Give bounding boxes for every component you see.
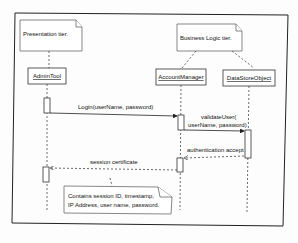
- validate-user-label-line1: validateUser(: [201, 114, 236, 120]
- session-certificate-label: session certificate: [90, 159, 138, 165]
- validate-user-label-line2: userName, password): [188, 122, 247, 128]
- business-note-anchor-right: [232, 51, 254, 68]
- lifeline-data-store-object: DataStoreObject: [223, 70, 275, 86]
- lifeline-account-manager: AccountManager: [156, 69, 206, 85]
- login-message-label: Login(userName, password): [78, 104, 153, 110]
- lifeline-admin-tool: AdminTool: [28, 68, 66, 84]
- presentation-tier-label: Presentation tier.: [23, 31, 68, 37]
- admin-tool-activation-2: [43, 167, 49, 182]
- admin-tool-label: AdminTool: [33, 73, 61, 79]
- auth-accept-message-arrow: [184, 156, 244, 158]
- sequence-diagram: Presentation tier. Business Logic tier. …: [0, 0, 298, 243]
- session-certificate-note: Contains session ID, timestamp, IP Addre…: [64, 186, 172, 214]
- business-tier-label: Business Logic tier.: [180, 35, 232, 41]
- business-tier-note: Business Logic tier.: [177, 24, 242, 51]
- session-note-line1: Contains session ID, timestamp,: [68, 193, 154, 199]
- data-store-object-label: DataStoreObject: [227, 75, 272, 81]
- admin-tool-activation-1: [44, 98, 50, 113]
- presentation-tier-note: Presentation tier.: [20, 20, 82, 51]
- account-manager-label: AccountManager: [158, 74, 203, 80]
- account-manager-activation-2: [177, 158, 183, 172]
- data-store-object-activation: [245, 130, 251, 158]
- session-note-anchor: [110, 178, 112, 186]
- auth-accept-label: authentication accept: [187, 147, 244, 153]
- account-manager-activation-1: [178, 115, 184, 130]
- validate-user-message-arrow: [184, 130, 244, 131]
- session-note-line2: IP Address, user name, password.: [68, 202, 160, 208]
- session-certificate-message-arrow: [50, 168, 177, 170]
- login-message-arrow: [50, 113, 177, 116]
- account-manager-lifeline: [180, 85, 181, 210]
- business-note-anchor-left: [182, 51, 196, 68]
